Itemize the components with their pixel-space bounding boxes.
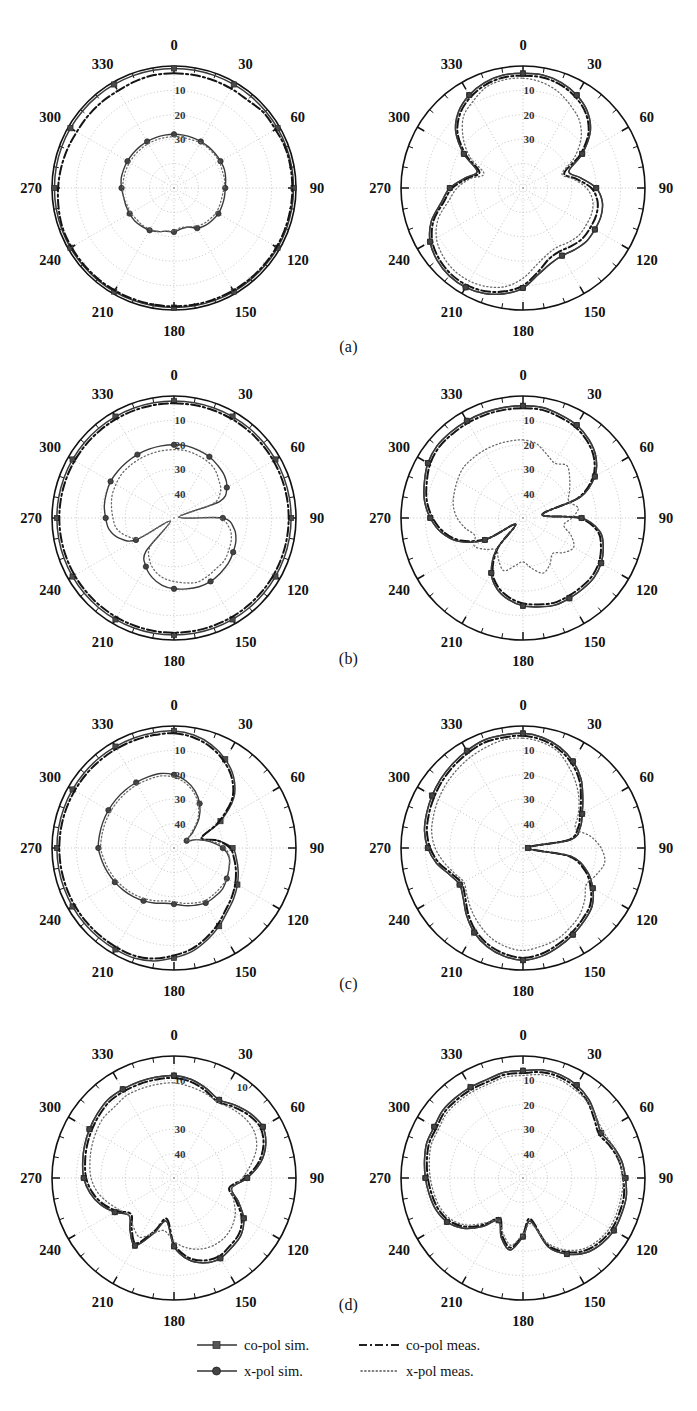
angle-label-180: 180	[163, 323, 185, 339]
polar-plot-d-left: 030609012015018021024027030033010103040	[0, 1012, 348, 1342]
radial-label-40: 40	[524, 1148, 536, 1160]
marker-circle	[579, 515, 584, 520]
marker-circle	[108, 479, 113, 484]
angle-label-30: 30	[587, 716, 602, 732]
legend-sample-co-pol-meas	[358, 1338, 400, 1352]
legend-sample-x-pol-meas	[358, 1364, 400, 1378]
marker-circle	[520, 285, 525, 290]
radial-label-10: 10	[524, 1074, 536, 1086]
radial-tick-labels: 10203040	[524, 414, 536, 499]
angle-label-120: 120	[636, 1242, 658, 1258]
marker-circle	[171, 442, 176, 447]
angle-label-330: 330	[92, 1046, 114, 1062]
angle-label-60: 60	[640, 109, 655, 125]
polar-axes: 0306090120150180210240270300330102030	[0, 22, 348, 352]
radial-label-40: 40	[524, 818, 536, 830]
legend-sample-co-pol-sim	[196, 1338, 238, 1352]
radiation-pattern-figure: 0306090120150180210240270300330102030 03…	[0, 0, 697, 1411]
polar-grid	[401, 66, 645, 310]
angle-label-240: 240	[39, 582, 61, 598]
legend-item-co-pol-sim: co-pol sim.	[196, 1332, 358, 1358]
marker-circle	[520, 603, 525, 608]
angle-tick-labels: 0306090120150180210240270300330	[20, 1027, 324, 1329]
marker-circle	[125, 158, 130, 163]
marker-circle	[218, 1256, 223, 1261]
polar-grid	[52, 1056, 296, 1300]
data-series	[424, 731, 604, 963]
angle-label-240: 240	[388, 252, 410, 268]
polar-axes: 030609012015018021024027030033010203040	[349, 682, 697, 1012]
marker-circle	[489, 570, 494, 575]
polar-axes: 030609012015018021024027030033010203040	[349, 1012, 697, 1342]
marker-circle	[570, 932, 575, 937]
polar-plot-a-right: 0306090120150180210240270300330102030	[349, 22, 697, 352]
marker-circle	[428, 515, 433, 520]
angle-label-300: 300	[388, 109, 410, 125]
legend-item-co-pol-meas: co-pol meas.	[358, 1332, 548, 1358]
angle-label-270: 270	[20, 510, 42, 526]
angle-label-240: 240	[39, 252, 61, 268]
angle-label-90: 90	[310, 510, 325, 526]
panel-row-b: 030609012015018021024027030033010203040 …	[0, 352, 697, 682]
marker-circle	[432, 1124, 437, 1129]
polar-axes: 030609012015018021024027030033010103040	[0, 1012, 348, 1342]
panel-row-c: 030609012015018021024027030033010203040 …	[0, 682, 697, 1012]
marker-circle	[230, 549, 235, 554]
panel-row-d: 030609012015018021024027030033010103040 …	[0, 1012, 697, 1342]
angle-tick-labels: 0306090120150180210240270300330	[20, 37, 324, 339]
angle-label-90: 90	[659, 1170, 674, 1186]
polar-plot-b-right: 030609012015018021024027030033010203040	[349, 352, 697, 682]
polar-plot-c-right: 030609012015018021024027030033010203040	[349, 682, 697, 1012]
radial-label-40: 40	[175, 818, 187, 830]
angle-label-150: 150	[235, 634, 257, 650]
radial-tick-labels: 102030	[524, 84, 536, 145]
marker-circle	[457, 882, 462, 887]
angle-label-60: 60	[291, 439, 306, 455]
radial-label-20: 20	[524, 1099, 536, 1111]
radial-label-10: 10	[524, 84, 536, 96]
marker-circle	[464, 748, 469, 753]
marker-circle	[567, 596, 572, 601]
angle-label-210: 210	[441, 304, 463, 320]
polar-axes: 030609012015018021024027030033010203040	[349, 352, 697, 682]
marker-circle	[429, 793, 434, 798]
legend-item-x-pol-sim: x-pol sim.	[196, 1358, 358, 1384]
marker-circle	[520, 1068, 525, 1073]
angle-label-30: 30	[238, 56, 253, 72]
radial-label-30: 30	[524, 133, 536, 145]
marker-circle	[574, 92, 579, 97]
marker-circle	[559, 253, 564, 258]
polar-grid	[401, 1056, 645, 1300]
angle-tick-labels: 0306090120150180210240270300330	[369, 697, 673, 999]
radial-label-30: 30	[175, 463, 187, 475]
angle-label-330: 330	[92, 56, 114, 72]
angle-label-300: 300	[388, 769, 410, 785]
angle-label-60: 60	[291, 769, 306, 785]
marker-circle	[135, 452, 140, 457]
radial-label-10: 10	[175, 744, 187, 756]
radial-label-10: 10	[175, 414, 187, 426]
radial-tick-labels: 10203040	[524, 1074, 536, 1159]
angle-label-150: 150	[584, 634, 606, 650]
angle-label-330: 330	[441, 1046, 463, 1062]
marker-circle	[592, 227, 597, 232]
angle-label-0: 0	[170, 37, 177, 53]
series-co-pol-meas	[426, 408, 601, 604]
marker-circle	[120, 1087, 125, 1092]
angle-label-300: 300	[388, 439, 410, 455]
marker-square	[231, 82, 236, 87]
angle-label-0: 0	[170, 1027, 177, 1043]
marker-circle	[245, 1175, 250, 1180]
marker-circle	[425, 460, 430, 465]
angle-label-60: 60	[291, 1099, 306, 1115]
angle-label-60: 60	[640, 439, 655, 455]
angle-label-300: 300	[39, 1099, 61, 1115]
legend-row-2: x-pol sim. x-pol meas.	[196, 1358, 556, 1384]
marker-circle	[592, 474, 597, 479]
radial-label-40: 40	[175, 488, 187, 500]
radial-label-20: 20	[524, 769, 536, 781]
angle-tick-labels: 0306090120150180210240270300330	[20, 367, 324, 669]
angle-label-240: 240	[388, 912, 410, 928]
radial-tick-labels: 10203040	[175, 414, 187, 499]
marker-circle	[425, 845, 430, 850]
